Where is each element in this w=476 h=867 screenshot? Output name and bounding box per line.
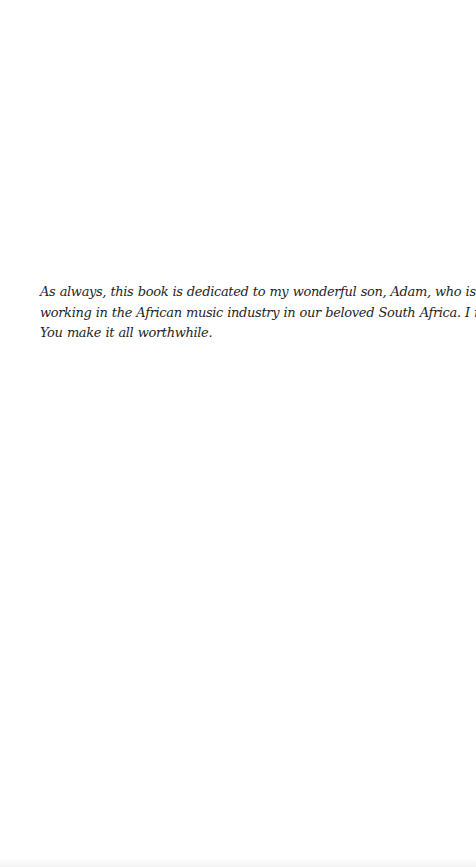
dedication-line-2: working in the African music industry in… [40, 303, 450, 324]
page-bottom-edge [0, 858, 476, 867]
dedication-line-1: As always, this book is dedicated to my … [40, 282, 450, 303]
dedication-paragraph: As always, this book is dedicated to my … [40, 282, 450, 344]
book-page: As always, this book is dedicated to my … [0, 0, 476, 867]
dedication-line-3: You make it all worthwhile. [40, 323, 450, 344]
